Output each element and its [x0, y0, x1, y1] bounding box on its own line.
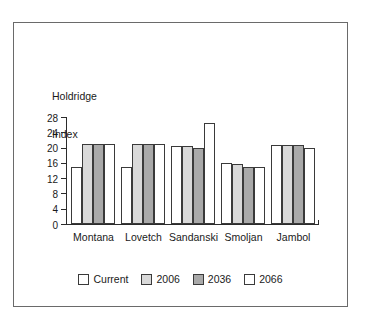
y-axis-tick: 0 [61, 224, 66, 225]
plot-area [66, 117, 316, 224]
y-axis-tick-label: 20 [47, 143, 58, 154]
bar [132, 144, 143, 224]
bar [232, 164, 243, 224]
bar [271, 145, 282, 224]
bar [93, 144, 104, 224]
legend-swatch-icon [141, 274, 152, 285]
y-axis-tick-label: 16 [47, 158, 58, 169]
x-axis-category-label: Smoljan [225, 231, 263, 243]
legend-label: 2006 [156, 273, 179, 285]
legend-item: 2036 [193, 273, 231, 285]
legend-label: 2066 [259, 273, 282, 285]
bar [182, 146, 193, 224]
bar [204, 123, 215, 224]
chart-frame: Holdridge Index 0481216202428 MontanaLov… [13, 22, 348, 307]
y-axis-tick-label: 28 [47, 112, 58, 123]
bar-group [271, 117, 316, 224]
legend-swatch-icon [78, 274, 89, 285]
bar [171, 146, 182, 224]
bar-group [121, 117, 166, 224]
bar [304, 148, 315, 224]
y-axis-tick-label: 12 [47, 173, 58, 184]
bar [282, 145, 293, 224]
legend-label: 2036 [208, 273, 231, 285]
legend-label: Current [93, 273, 128, 285]
chart-legend: Current200620362066 [14, 273, 347, 285]
bar [243, 167, 254, 224]
bar [104, 144, 115, 224]
x-axis-category-label: Lovetch [125, 231, 162, 243]
bar [221, 163, 232, 224]
x-axis-category-label: Montana [73, 231, 114, 243]
y-axis-tick-label: 4 [52, 204, 58, 215]
x-axis-category-label: Jambol [277, 231, 311, 243]
x-axis-end-tick [318, 220, 319, 225]
bar [193, 148, 204, 224]
x-axis-category-label: Sandanski [169, 231, 218, 243]
bar [121, 167, 132, 224]
y-axis-tick-label: 0 [52, 219, 58, 230]
bar [154, 144, 165, 224]
legend-swatch-icon [193, 274, 204, 285]
bar [82, 144, 93, 224]
y-axis-title-line-1: Holdridge [52, 90, 97, 103]
legend-item: Current [78, 273, 128, 285]
bar [143, 144, 154, 224]
legend-item: 2006 [141, 273, 179, 285]
y-axis-tick-label: 8 [52, 188, 58, 199]
bar [71, 167, 82, 224]
bar-group [221, 117, 266, 224]
legend-swatch-icon [244, 274, 255, 285]
bar-group [171, 117, 216, 224]
y-axis-tick-label: 24 [47, 127, 58, 138]
legend-item: 2066 [244, 273, 282, 285]
x-axis-line [66, 224, 319, 225]
bar-group [71, 117, 116, 224]
bar [293, 145, 304, 224]
bar [254, 167, 265, 224]
